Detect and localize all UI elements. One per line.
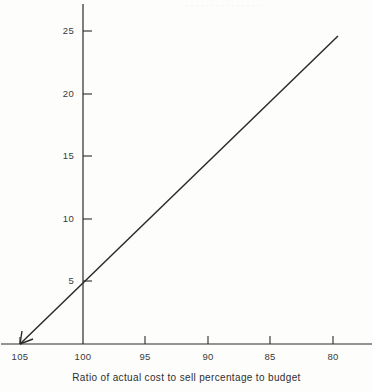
x-tick-label-90: 90	[193, 351, 223, 362]
chart-page: . . . . . . . . . . . . . . .	[0, 0, 373, 392]
x-tick-label-80: 80	[318, 351, 348, 362]
x-axis-title: Ratio of actual cost to sell percentage …	[0, 372, 373, 383]
y-tick-label-25: 25	[52, 25, 74, 36]
y-tick-label-15: 15	[52, 150, 74, 161]
chart-plot-area	[0, 0, 373, 392]
y-tick-label-5: 5	[52, 275, 74, 286]
x-axis-ticks	[20, 336, 333, 344]
x-tick-label-105: 105	[5, 351, 35, 362]
x-tick-label-85: 85	[255, 351, 285, 362]
y-tick-label-10: 10	[52, 213, 74, 224]
y-tick-label-20: 20	[52, 88, 74, 99]
x-tick-label-95: 95	[130, 351, 160, 362]
x-tick-label-100: 100	[68, 351, 98, 362]
y-axis-ticks	[83, 31, 92, 281]
bonus-data-line	[20, 36, 338, 344]
